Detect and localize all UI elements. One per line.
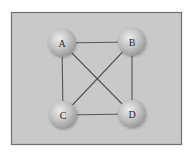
node-d: D <box>118 100 146 128</box>
node-b: B <box>118 28 146 56</box>
node-a: A <box>48 29 76 57</box>
node-c: C <box>49 101 77 129</box>
node-label: D <box>128 109 135 120</box>
node-label: B <box>129 37 136 48</box>
node-label: C <box>60 110 67 121</box>
node-label: A <box>58 38 66 49</box>
graph-diagram: ABCD <box>0 0 194 154</box>
